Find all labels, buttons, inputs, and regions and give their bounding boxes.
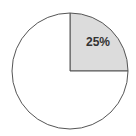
pie-chart: 25% — [0, 0, 136, 136]
pie-slices — [12, 13, 128, 129]
slice-label-25-percent: 25% — [86, 35, 110, 49]
